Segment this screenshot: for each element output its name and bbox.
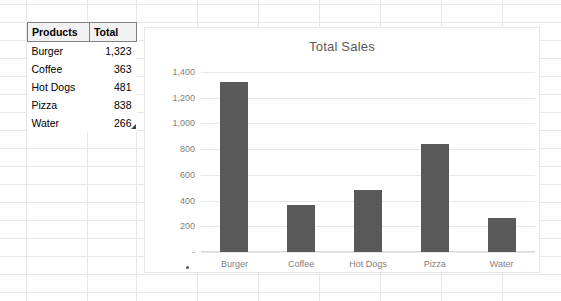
cell-total[interactable]: 363: [89, 60, 136, 78]
cell-total[interactable]: 838: [89, 96, 136, 114]
chart-title: Total Sales: [145, 39, 539, 54]
bar-slot: Water: [468, 72, 535, 252]
bar-slot: Hot Dogs: [335, 72, 402, 252]
y-axis-tick-label: -: [192, 247, 195, 257]
cell-product[interactable]: Burger: [28, 42, 90, 61]
bar[interactable]: [488, 218, 516, 252]
cell-total[interactable]: 266: [89, 114, 136, 132]
bar-slot: Pizza: [401, 72, 468, 252]
bar[interactable]: [421, 144, 449, 252]
table-row[interactable]: Pizza838: [28, 96, 137, 114]
chart-object[interactable]: Total Sales -2004006008001,0001,2001,400…: [144, 27, 540, 273]
category-axis-label: Hot Dogs: [349, 259, 387, 269]
column-header-products[interactable]: Products: [28, 23, 90, 42]
cell-product[interactable]: Water: [28, 114, 90, 132]
bar-slot: Burger: [201, 72, 268, 252]
cell-total[interactable]: 481: [89, 78, 136, 96]
y-axis-tick-label: 1,400: [172, 67, 195, 77]
y-axis-tick-label: 800: [180, 144, 195, 154]
table-row[interactable]: Burger1,323: [28, 42, 137, 61]
category-axis-label: Water: [490, 259, 514, 269]
table-row[interactable]: Hot Dogs481: [28, 78, 137, 96]
cell-total[interactable]: 1,323: [89, 42, 136, 61]
column-header-total[interactable]: Total: [89, 23, 136, 42]
bar[interactable]: [220, 82, 248, 252]
category-axis-label: Pizza: [424, 259, 446, 269]
table-row[interactable]: Coffee363: [28, 60, 137, 78]
gridline: [201, 252, 535, 253]
y-axis-tick-label: 400: [180, 196, 195, 206]
y-axis-tick-label: 200: [180, 221, 195, 231]
cell-product[interactable]: Coffee: [28, 60, 90, 78]
y-axis-tick-label: 1,200: [172, 93, 195, 103]
bar-slot: Coffee: [268, 72, 335, 252]
fill-handle[interactable]: [131, 124, 136, 129]
category-axis-label: Coffee: [288, 259, 314, 269]
bar[interactable]: [287, 205, 315, 252]
bar-series: BurgerCoffeeHot DogsPizzaWater: [201, 72, 535, 252]
y-axis-tick-label: 600: [180, 170, 195, 180]
cursor-dot: [186, 266, 189, 269]
table-body: Burger1,323Coffee363Hot Dogs481Pizza838W…: [28, 42, 137, 133]
bar[interactable]: [354, 190, 382, 252]
y-axis-tick-label: 1,000: [172, 118, 195, 128]
table-header-row: Products Total: [28, 23, 137, 42]
cell-product[interactable]: Hot Dogs: [28, 78, 90, 96]
plot-area: -2004006008001,0001,2001,400 BurgerCoffe…: [201, 72, 535, 252]
products-total-table[interactable]: Products Total Burger1,323Coffee363Hot D…: [27, 22, 137, 132]
cell-product[interactable]: Pizza: [28, 96, 90, 114]
category-axis-label: Burger: [221, 259, 248, 269]
table-row[interactable]: Water266: [28, 114, 137, 132]
